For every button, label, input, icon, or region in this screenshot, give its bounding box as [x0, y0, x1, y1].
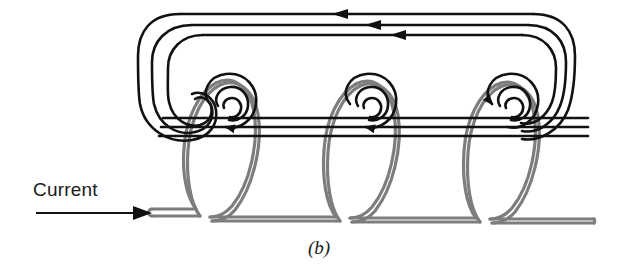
current-arrow — [36, 206, 152, 220]
wire-turn-2 — [324, 81, 481, 222]
wire-turn-3 — [464, 82, 540, 223]
magnetic-field-lines-group — [138, 9, 588, 141]
wire-lead-in — [149, 209, 201, 216]
solenoid-figure: Current (b) — [0, 0, 638, 274]
field-arrow-3 — [390, 30, 406, 40]
solenoid-diagram-svg — [0, 0, 638, 274]
field-arrow-2 — [365, 20, 381, 30]
figure-caption: (b) — [0, 237, 638, 259]
field-arrow-1 — [332, 9, 348, 19]
current-label: Current — [33, 179, 98, 201]
